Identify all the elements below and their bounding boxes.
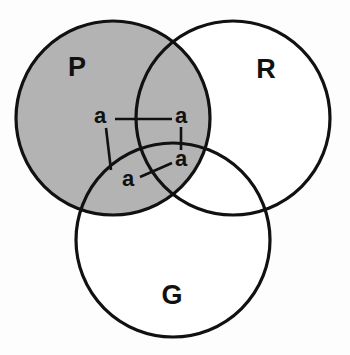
region-label-a-p-and-r: a (175, 103, 188, 128)
region-label-a-p-only: a (94, 103, 107, 128)
set-label-p: P (68, 52, 86, 82)
region-label-a-p-and-g: a (122, 166, 135, 191)
set-label-r: R (256, 54, 276, 84)
region-label-a-p-and-r-and-g: a (175, 146, 188, 171)
venn-diagram-canvas: P R G a a a a (0, 0, 350, 355)
set-label-g: G (161, 280, 182, 310)
venn-diagram-figure: P R G a a a a (0, 0, 350, 355)
